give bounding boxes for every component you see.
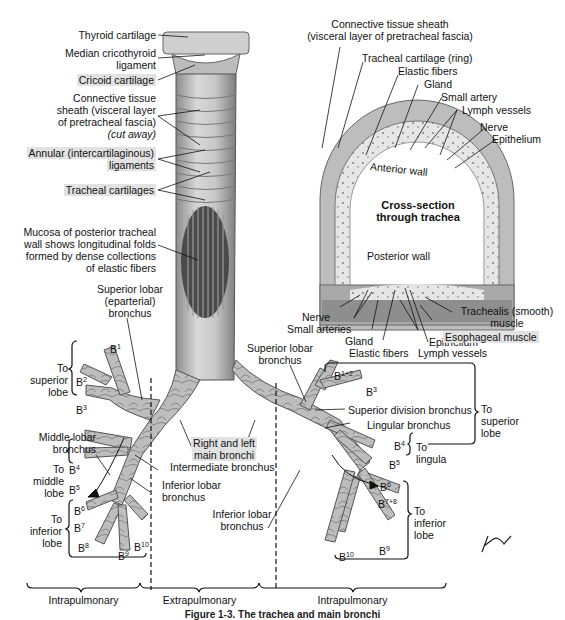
label-lb78: B7+8 xyxy=(378,498,397,510)
b-sup: 5 xyxy=(396,459,400,466)
b-label: B xyxy=(339,551,346,563)
b-sup: 7+8 xyxy=(385,498,397,505)
label-line: bronchus xyxy=(202,520,282,532)
region-label-intrapulmonary-right: Intrapulmonary xyxy=(259,594,446,606)
label-lb10: B10 xyxy=(339,551,354,563)
b-sup: 6 xyxy=(387,481,391,488)
label-rb7: B7 xyxy=(74,522,85,534)
label-line: sheath (visceral layer xyxy=(20,104,156,116)
label-main-bronchi: Right and left main bronchi xyxy=(184,437,264,461)
label-line: ligaments xyxy=(107,159,156,171)
region-label-intrapulmonary-left: Intrapulmonary xyxy=(27,594,140,606)
label-line: Connective tissue sheath xyxy=(290,18,490,30)
label-tracheal-cartilages: Tracheal cartilages xyxy=(64,184,156,196)
label-intermediate-bronchus: Intermediate bronchus xyxy=(170,461,274,473)
label-line: To xyxy=(416,441,446,453)
label-left-to-superior-lobe: To superior lobe xyxy=(481,403,519,439)
label-connective-tissue-sheath: Connective tissue sheath (visceral layer… xyxy=(20,92,156,140)
b-label: B xyxy=(74,522,81,534)
label-to-middle-lobe: To middle lobe xyxy=(20,463,64,499)
label-cs-nerve-bottom: Nerve xyxy=(302,311,330,323)
label-cs-lymph-vessels-bottom: Lymph vessels xyxy=(418,347,487,359)
b-label: B xyxy=(69,464,76,476)
label-cs-connective-tissue-sheath: Connective tissue sheath (visceral layer… xyxy=(290,18,490,42)
label-line: bronchus xyxy=(240,354,320,366)
label-line: bronchus xyxy=(80,307,180,319)
b-label: B xyxy=(366,386,373,398)
signature-mark xyxy=(482,536,511,552)
label-line: Inferior lobar xyxy=(202,508,282,520)
b-label: B xyxy=(74,505,81,517)
b-sup: 5 xyxy=(76,484,80,491)
label-line: Superior lobar xyxy=(80,283,180,295)
label-line: bronchus xyxy=(162,491,221,503)
label-line: To xyxy=(414,505,446,517)
label-cs-elastic-fibers-bottom: Elastic fibers xyxy=(349,347,409,359)
b-label: B xyxy=(134,541,141,553)
label-line: lobe xyxy=(20,386,68,398)
label-line: (eparterial) xyxy=(80,295,180,307)
label-posterior-wall: Posterior wall xyxy=(367,250,430,262)
label-line: of pretracheal fascia) xyxy=(20,116,156,128)
b-label: B xyxy=(379,545,386,557)
label-line: formed by dense collections xyxy=(5,250,156,262)
b-sup: 2 xyxy=(83,376,87,383)
label-line: To xyxy=(20,513,62,525)
label-rb3: B3 xyxy=(76,404,87,416)
label-line: Trachealis (smooth) xyxy=(452,305,562,317)
label-right-superior-lobar-bronchus: Superior lobar (eparterial) bronchus xyxy=(80,283,180,319)
label-line: lobe xyxy=(20,537,62,549)
b-sup: 10 xyxy=(141,541,149,548)
b-sup: 9 xyxy=(125,550,129,557)
label-rb8: B8 xyxy=(78,542,89,554)
title-line: through trachea xyxy=(357,211,479,223)
b-label: B xyxy=(380,481,387,493)
b-label: B xyxy=(118,550,125,562)
label-line: Inferior lobar xyxy=(162,479,221,491)
trachea xyxy=(163,32,249,380)
label-rb9: B9 xyxy=(118,550,129,562)
label-right-to-inferior-lobe: To inferior lobe xyxy=(20,513,62,549)
label-line: lobe xyxy=(20,487,64,499)
label-rb4: B4 xyxy=(69,464,80,476)
label-line: (cut away) xyxy=(20,128,156,140)
right-bronchial-tree xyxy=(80,346,200,550)
label-trachealis-muscle: Trachealis (smooth) muscle xyxy=(452,305,562,329)
label-rb10: B10 xyxy=(134,541,149,553)
label-line: of elastic fibers xyxy=(5,262,156,274)
b-label: B xyxy=(378,498,385,510)
label-right-inferior-lobar-bronchus: Inferior lobar bronchus xyxy=(162,479,221,503)
label-line: Superior lobar xyxy=(240,342,320,354)
region-braces xyxy=(27,583,446,592)
label-median-cricothyroid: Median cricothyroid ligament xyxy=(30,47,156,71)
b-sup: 1+2 xyxy=(341,370,353,377)
label-lingular-bronchus: Lingular bronchus xyxy=(367,419,450,431)
b-label: B xyxy=(78,542,85,554)
b-sup: 8 xyxy=(85,542,89,549)
label-lb6: B6 xyxy=(380,481,391,493)
b-label: B xyxy=(110,343,117,355)
label-line: muscle xyxy=(452,317,562,329)
label-line: To xyxy=(20,463,64,475)
label-cricoid-cartilage: Cricoid cartilage xyxy=(77,74,156,86)
label-esophageal-muscle: Esophageal muscle xyxy=(443,331,539,343)
b-label: B xyxy=(76,376,83,388)
b-sup: 6 xyxy=(81,505,85,512)
b-sup: 10 xyxy=(346,551,354,558)
label-line: wall shows longitudinal folds xyxy=(5,238,156,250)
label-cs-small-artery: Small artery xyxy=(441,91,497,103)
label-middle-lobar-bronchus: Middle lobar bronchus xyxy=(20,431,96,455)
label-left-to-inferior-lobe: To inferior lobe xyxy=(414,505,446,541)
label-rb1: B1 xyxy=(110,343,121,355)
b-sup: 4 xyxy=(401,440,405,447)
label-lb12: B1+2 xyxy=(334,370,353,382)
label-left-inferior-lobar-bronchus: Inferior lobar bronchus xyxy=(202,508,282,532)
label-line: middle xyxy=(20,475,64,487)
region-label-extrapulmonary: Extrapulmonary xyxy=(140,594,259,606)
label-line: Right and left xyxy=(191,437,257,449)
label-line: lingula xyxy=(416,453,446,465)
label-lb4: B4 xyxy=(394,440,405,452)
b-sup: 4 xyxy=(76,464,80,471)
label-right-to-superior-lobe: To superior lobe xyxy=(20,362,68,398)
label-line: (visceral layer of pretracheal fascia) xyxy=(290,30,490,42)
